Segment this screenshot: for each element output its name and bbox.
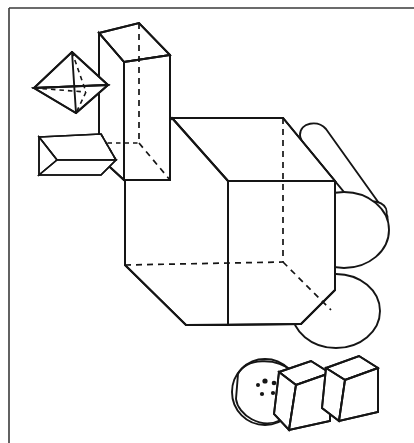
- drawing-page: Geometric Solids Line Drawing black and …: [0, 0, 414, 443]
- geometric-solids-figure: [0, 0, 414, 443]
- tall-box-front-face: [124, 55, 170, 180]
- large-cube-right-face: [228, 181, 335, 325]
- small-cube-left: [274, 361, 330, 430]
- sphere-dot-3: [256, 383, 260, 387]
- sphere-dot-4: [260, 392, 264, 396]
- small-cube-right: [322, 356, 378, 421]
- pyramid: [34, 52, 108, 113]
- sphere-dot-5: [271, 391, 275, 395]
- pyramid-upper-face: [34, 52, 108, 88]
- sphere-dot-2: [272, 381, 277, 386]
- sphere-dot-1: [262, 378, 267, 383]
- small-prism: [39, 134, 116, 175]
